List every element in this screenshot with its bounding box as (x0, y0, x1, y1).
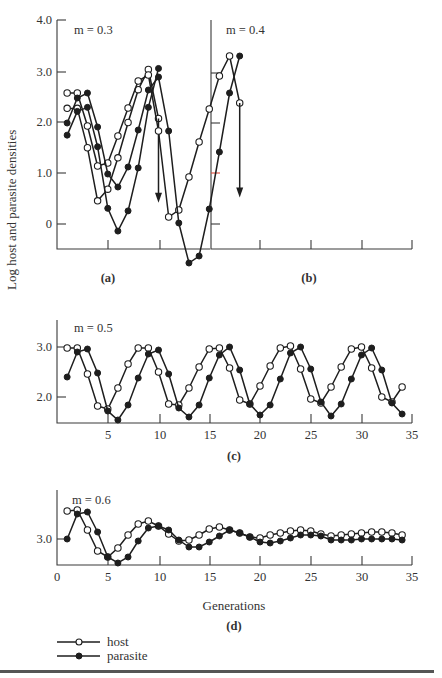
host-point (135, 521, 141, 527)
x-tick-label: 5 (105, 428, 111, 442)
host-point (145, 345, 151, 351)
host-point (64, 345, 70, 351)
parasite-point (257, 539, 263, 545)
parasite-point (206, 375, 212, 381)
host-point (94, 548, 100, 554)
parasite-point (74, 511, 80, 517)
parasite-point (389, 400, 395, 406)
host-point (287, 343, 293, 349)
parasite-point (399, 537, 405, 543)
parasite-point (257, 412, 263, 418)
chart-canvas: 4.03.02.01.00m = 0.3(a)m = 0.4(b)3.02.05… (0, 0, 442, 678)
host-line (67, 56, 240, 217)
parasite-point (348, 537, 354, 543)
host-point (135, 345, 141, 351)
parasite-point (196, 544, 202, 550)
host-point (368, 365, 374, 371)
host-point (84, 527, 90, 533)
parasite-point (125, 164, 131, 170)
x-tick-label: 10 (154, 570, 167, 584)
host-point (216, 73, 222, 79)
parasite-point (308, 366, 314, 372)
parasite-point (115, 417, 121, 423)
y-tick-label: 2.0 (36, 390, 52, 404)
host-point (135, 78, 141, 84)
parasite-point (135, 375, 141, 381)
parasite-point (237, 530, 243, 536)
host-point (399, 384, 405, 390)
panel-label: (a) (101, 271, 116, 285)
parasite-point (206, 539, 212, 545)
x-tick-label: 20 (254, 428, 267, 442)
x-tick-label: 5 (105, 570, 111, 584)
host-point (64, 90, 70, 96)
parasite-point (95, 124, 101, 130)
host-point (125, 532, 131, 538)
down-arrow-icon (155, 193, 162, 203)
host-point (287, 528, 293, 534)
host-point (94, 198, 100, 204)
host-point (297, 366, 303, 372)
y-tick-label: 0 (46, 217, 52, 231)
parasite-point (95, 529, 101, 535)
host-point (186, 537, 192, 543)
parasite-point (135, 127, 141, 133)
parasite-point (125, 402, 131, 408)
host-point (145, 518, 151, 524)
parasite-point (206, 206, 212, 212)
y-tick-label: 3.0 (36, 532, 52, 546)
parasite-point (166, 128, 172, 134)
x-tick-label: 35 (406, 570, 419, 584)
host-point (216, 345, 222, 351)
parasite-point (156, 347, 162, 353)
host-point (125, 119, 131, 125)
host-point (94, 163, 100, 169)
parasite-point (399, 411, 405, 417)
parasite-point (135, 165, 141, 171)
parasite-point (145, 104, 151, 110)
parasite-point (74, 349, 80, 355)
parameter-annotation: m = 0.6 (72, 493, 111, 507)
host-point (237, 397, 243, 403)
x-tick-label: 25 (305, 428, 318, 442)
parasite-point (84, 104, 90, 110)
chart-panel-c: 3.02.05101520253035m = 0.5(c) (36, 320, 418, 463)
parasite-point (328, 537, 334, 543)
parasite-point (348, 376, 354, 382)
parasite-point (145, 87, 151, 93)
panel-label: (c) (227, 449, 241, 463)
host-point (125, 361, 131, 367)
parasite-point (186, 414, 192, 420)
parasite-point (186, 260, 192, 266)
parasite-point (115, 560, 121, 566)
parasite-point (247, 401, 253, 407)
parasite-point (64, 374, 70, 380)
host-point (115, 545, 121, 551)
host-point (165, 401, 171, 407)
parasite-point (298, 344, 304, 350)
host-point (277, 530, 283, 536)
parasite-point (196, 253, 202, 259)
parasite-point (227, 90, 233, 96)
parasite-point (84, 346, 90, 352)
bottom-rule (0, 670, 434, 673)
parasite-point (166, 371, 172, 377)
parameter-annotation: m = 0.5 (74, 321, 113, 335)
host-point (196, 364, 202, 370)
parasite-point (216, 533, 222, 539)
axis-frame (57, 20, 210, 249)
parasite-point (64, 120, 70, 126)
parasite-point (389, 536, 395, 542)
parasite-point (338, 401, 344, 407)
parasite-point (176, 537, 182, 543)
parasite-point (277, 376, 283, 382)
y-tick-label: 4.0 (36, 13, 52, 27)
parasite-point (105, 205, 111, 211)
panel-label: (b) (301, 271, 316, 285)
x-tick-label: 20 (254, 570, 267, 584)
parasite-point (125, 554, 131, 560)
parasite-point (227, 527, 233, 533)
parasite-point (156, 65, 162, 71)
parasite-point (156, 74, 162, 80)
x-tick-label: 10 (154, 428, 167, 442)
